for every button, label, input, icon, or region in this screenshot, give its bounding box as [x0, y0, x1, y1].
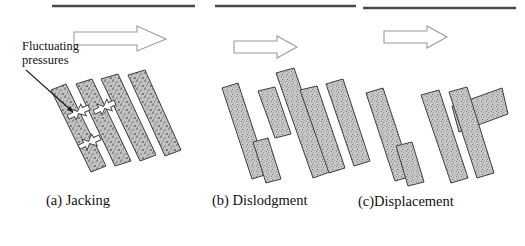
flow-arrow-icon: [74, 26, 166, 51]
flow-arrow-icon: [384, 26, 447, 48]
flow-arrow-icon: [234, 36, 297, 58]
panel-caption-c: (c)Displacement: [358, 193, 454, 210]
flow-arrow-panel-b: [234, 36, 297, 58]
panel-caption-a: (a) Jacking: [46, 192, 110, 209]
fluctuating-pressures-label: Fluctuating pressures: [22, 40, 79, 67]
flow-arrow-panel-a: [74, 26, 166, 51]
figure-root: Fluctuating pressures (a) Jacking (b) Di…: [0, 0, 525, 246]
surface-lines: [52, 6, 516, 8]
fluctuating-pressures-line2: pressures: [22, 54, 79, 68]
panel-b-blocks: [222, 68, 370, 183]
fluctuating-pressures-line1: Fluctuating: [22, 40, 79, 54]
panel-c-blocks: [366, 87, 508, 186]
panel-a-blocks: [26, 70, 181, 172]
panel-caption-b: (b) Dislodgment: [212, 192, 307, 209]
flow-arrow-panel-c: [384, 26, 447, 48]
